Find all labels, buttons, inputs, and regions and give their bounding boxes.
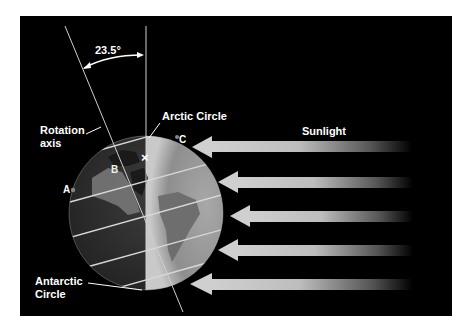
point-x-marker: × bbox=[141, 150, 149, 165]
arctic-circle-leader bbox=[149, 123, 160, 138]
point-b-label: B bbox=[111, 164, 118, 175]
sunlight-arrow-1 bbox=[192, 136, 412, 158]
sunlight-arrow-2 bbox=[218, 171, 413, 193]
antarctic-circle-label-line1: Antarctic bbox=[35, 275, 83, 288]
tilt-angle-label: 23.5° bbox=[95, 44, 121, 57]
point-a-dot bbox=[71, 188, 75, 192]
rotation-axis-label-line2: axis bbox=[40, 137, 85, 150]
antarctic-circle-label-line2: Circle bbox=[35, 288, 83, 301]
sunlight-arrows bbox=[190, 136, 413, 295]
point-a-label: A bbox=[63, 184, 70, 195]
rotation-axis-leader bbox=[86, 127, 101, 134]
rotation-axis-label: Rotation axis bbox=[40, 124, 85, 150]
sunlight-arrow-4 bbox=[218, 239, 413, 261]
point-c-label: C bbox=[179, 134, 186, 145]
arc-arrowhead-left bbox=[83, 62, 91, 69]
antarctic-circle-label: Antarctic Circle bbox=[35, 275, 83, 301]
arc-arrowhead-right bbox=[137, 52, 144, 58]
arctic-circle-label: Arctic Circle bbox=[162, 110, 227, 123]
rotation-axis-label-line1: Rotation bbox=[40, 124, 85, 137]
sunlight-arrow-3 bbox=[230, 205, 413, 227]
sunlight-arrow-5 bbox=[190, 273, 413, 295]
sunlight-label: Sunlight bbox=[302, 125, 346, 138]
